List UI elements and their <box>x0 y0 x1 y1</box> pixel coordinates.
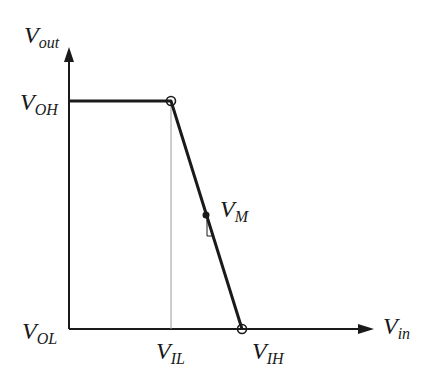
vol-label: VOL <box>22 318 57 347</box>
vih-label: VIH <box>252 338 285 367</box>
vm-point-icon <box>203 212 210 219</box>
x-axis-arrow-icon <box>358 324 374 334</box>
y-axis-label: Vout <box>24 22 60 51</box>
y-axis-arrow-icon <box>64 47 74 62</box>
vil-label: VIL <box>156 338 185 367</box>
vtc-diagram: Vout VOH VOL VIL VIH VM Vin <box>0 0 426 375</box>
voh-label: VOH <box>20 89 59 118</box>
x-axis-label: Vin <box>383 313 410 342</box>
vm-label: VM <box>220 196 250 225</box>
transfer-curve <box>69 101 242 329</box>
